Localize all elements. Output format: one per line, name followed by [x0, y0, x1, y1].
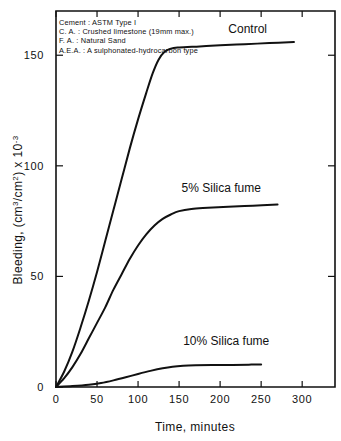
chart-page: 050100150200250300 050100150 Control5% S… — [0, 0, 341, 441]
y-axis-title-sup-3: -3 — [11, 135, 20, 143]
bleeding-vs-time-chart: 050100150200250300 050100150 Control5% S… — [0, 0, 341, 441]
note-line-4: A.E.A. : A sulphonated-hydrocarbon type — [59, 46, 198, 55]
x-tick-label-100: 100 — [128, 393, 148, 405]
x-tick-label-300: 300 — [292, 393, 312, 405]
y-tick-label-150: 150 — [24, 49, 44, 61]
curve-10-silica-fume — [56, 364, 261, 387]
y-axis-title-prefix: Bleeding, (cm — [11, 206, 25, 285]
x-tick-label-250: 250 — [251, 393, 271, 405]
y-axis-title-mid: /cm — [11, 181, 25, 202]
note-line-1: Cement : ASTM Type I — [59, 18, 136, 27]
specimen-notes: Cement : ASTM Type IC. A. : Crushed lime… — [59, 18, 198, 55]
x-axis-title: Time, minutes — [155, 420, 235, 434]
x-tick-label-0: 0 — [53, 393, 60, 405]
x-axis-tick-labels: 050100150200250300 — [53, 393, 313, 405]
y-tick-label-100: 100 — [24, 160, 44, 172]
y-axis-title: Bleeding, (cm3/cm2) x 10-3 — [11, 135, 25, 284]
curve-5-silica-fume — [56, 205, 278, 387]
series-annotations: Control5% Silica fume10% Silica fume — [182, 22, 270, 348]
series-label-5-silica-fume: 5% Silica fume — [182, 181, 262, 195]
y-tick-label-0: 0 — [37, 381, 44, 393]
y-axis-title-suffix: ) x 10 — [11, 143, 25, 175]
x-tick-label-50: 50 — [90, 393, 103, 405]
x-tick-label-200: 200 — [210, 393, 230, 405]
series-label-10-silica-fume: 10% Silica fume — [183, 334, 269, 348]
note-line-3: F. A. : Natural Sand — [59, 36, 126, 45]
plot-frame — [56, 11, 335, 387]
note-line-2: C. A. : Crushed limestone (19mm max.) — [59, 27, 194, 36]
y-axis-tick-labels: 050100150 — [24, 49, 44, 393]
y-tick-label-50: 50 — [31, 270, 44, 282]
x-tick-label-150: 150 — [169, 393, 189, 405]
series-label-control: Control — [228, 22, 267, 36]
